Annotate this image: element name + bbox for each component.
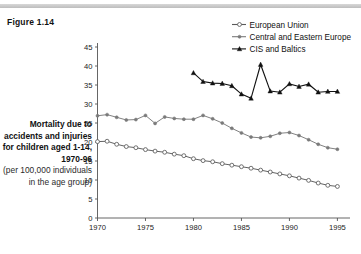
series-line [98,141,338,186]
series-point [134,146,138,150]
series-line [98,115,338,150]
series-point [153,149,157,153]
series-2 [191,62,340,100]
series-point [288,131,291,134]
legend-entry-2: CIS and Baltics [232,45,305,54]
series-point [316,181,320,185]
series-point [259,136,262,139]
series-point [192,157,196,161]
series-point [336,148,339,151]
y-tick-label: 20 [84,138,92,147]
x-tick-label: 1980 [185,223,202,232]
series-point [269,135,272,138]
series-point [124,145,128,149]
series-point [115,142,119,146]
chart-series-layer [96,62,340,188]
y-tick-label: 35 [84,81,92,90]
series-point [96,114,99,117]
series-point [287,81,292,85]
series-point [249,166,253,170]
legend-entry-0: European Union [232,21,309,30]
legend-marker-icon [238,35,241,38]
series-1 [96,113,339,151]
series-point [202,114,205,117]
series-point [191,70,196,74]
series-point [259,168,263,172]
series-point [287,174,291,178]
series-point [240,131,243,134]
legend-label: Central and Eastern Europe [250,33,352,42]
series-point [268,170,272,174]
legend-label: European Union [250,21,310,30]
series-point [250,136,253,139]
series-point [173,117,176,120]
series-point [106,113,109,116]
series-point [115,116,118,119]
chart-axes [98,43,351,218]
legend-marker-icon [238,23,242,27]
x-tick-label: 1995 [329,223,346,232]
series-point [201,159,205,163]
series-point [317,143,320,146]
series-point [326,183,330,187]
legend-entry-1: Central and Eastern Europe [232,33,351,42]
chart-legend: European UnionCentral and Eastern Europe… [232,21,351,54]
series-point [230,127,233,130]
legend-label: CIS and Baltics [250,45,306,54]
series-point [211,117,214,120]
series-point [211,160,215,164]
y-tick-label: 25 [84,119,92,128]
series-line [193,64,337,98]
series-point [278,172,282,176]
line-chart: 051015202530354045 197019751980198519901… [0,0,361,254]
series-point [335,185,339,189]
series-point [144,114,147,117]
series-0 [96,139,340,188]
series-point [182,154,186,158]
series-point [258,62,263,66]
y-tick-label: 0 [88,214,92,223]
series-point [182,118,185,121]
series-point [163,150,167,154]
x-tick-label: 1975 [137,223,154,232]
y-tick-label: 30 [84,100,92,109]
series-point [239,165,243,169]
series-point [297,176,301,180]
series-point [220,162,224,166]
series-point [163,115,166,118]
series-point [192,118,195,121]
series-point [307,138,310,141]
series-point [278,132,281,135]
x-tick-label: 1970 [89,223,106,232]
series-point [96,140,100,144]
series-point [144,148,148,152]
series-point [307,178,311,182]
series-point [306,82,311,86]
series-point [230,163,234,167]
x-tick-label: 1985 [233,223,250,232]
x-tick-label: 1990 [281,223,298,232]
y-tick-label: 45 [84,43,92,52]
series-point [326,146,329,149]
series-point [134,118,137,121]
series-point [221,122,224,125]
y-tick-label: 5 [88,195,92,204]
series-point [154,122,157,125]
series-point [125,118,128,121]
series-point [172,152,176,156]
y-axis-tick-labels: 051015202530354045 [84,43,97,223]
y-tick-label: 15 [84,157,92,166]
series-point [105,139,109,143]
series-point [298,134,301,137]
y-tick-label: 40 [84,62,92,71]
x-axis-tick-labels: 197019751980198519901995 [89,218,346,232]
y-tick-label: 10 [84,176,92,185]
